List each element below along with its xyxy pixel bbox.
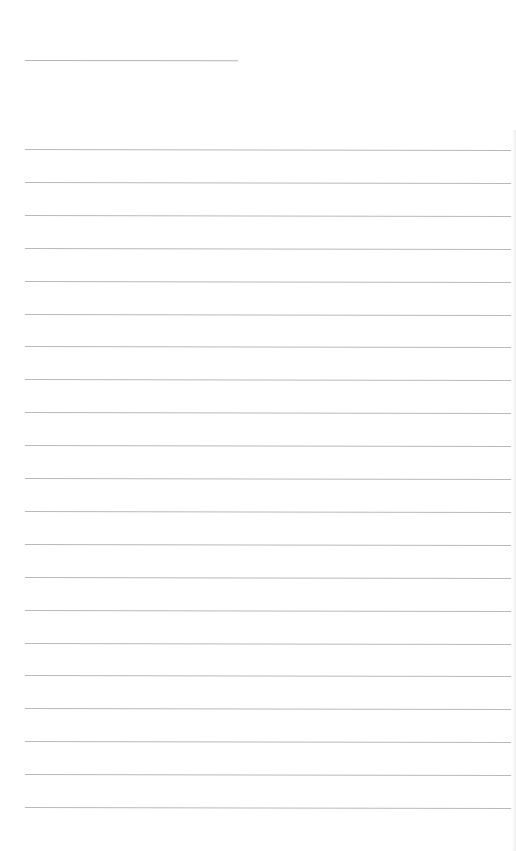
ruled-line [25,215,511,217]
ruled-line [25,478,511,480]
ruled-line [25,577,511,579]
page-edge-shadow [512,130,516,851]
ruled-line [25,248,511,250]
ruled-line [25,741,511,743]
ruled-line [25,182,511,184]
ruled-line [25,346,511,348]
ruled-line [25,774,511,776]
ruled-line [25,445,511,447]
ruled-line [25,675,511,677]
header-name-line [25,60,238,61]
ruled-line [25,281,511,283]
ruled-line [25,544,511,546]
ruled-line [25,314,511,316]
ruled-line [25,610,511,612]
ruled-line [25,708,511,710]
ruled-line [25,643,511,645]
ruled-line [25,511,511,513]
ruled-line [25,807,511,809]
ruled-line [25,412,511,414]
ruled-line [25,149,511,151]
lined-paper-page [0,0,516,851]
ruled-line [25,379,511,381]
